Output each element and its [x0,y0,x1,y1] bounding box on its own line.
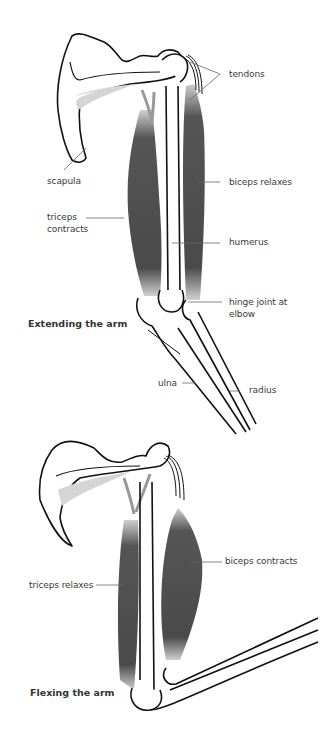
label-humerus: humerus [229,236,268,248]
humerus-bone-2 [140,482,154,690]
label-biceps-contracts: biceps contracts [225,555,297,567]
label-triceps-relaxes: triceps relaxes [29,579,93,591]
label-tendons: tendons [229,68,265,80]
triceps-muscle-2 [118,520,139,690]
arm-muscles-illustration [0,0,335,734]
caption-flexing: Flexing the arm [30,687,115,698]
ulna-bone [178,328,246,432]
triceps-muscle [128,110,162,296]
label-triceps-contracts-1: triceps [47,211,77,223]
scapula-bone [58,34,183,162]
label-hinge-joint-1: hinge joint at [229,296,287,308]
biceps-muscle-2 [161,508,202,660]
label-ulna: ulna [158,377,177,389]
caption-extending: Extending the arm [28,318,127,329]
label-radius: radius [249,384,276,396]
leader-lines-bottom [96,562,222,585]
humerus-bone [166,86,180,290]
label-triceps-contracts-2: contracts [47,223,88,235]
label-scapula: scapula [47,175,81,187]
label-hinge-joint-2: elbow [229,308,255,320]
label-biceps-relaxes: biceps relaxes [229,176,292,188]
flexing-arm-figure [40,442,319,711]
biceps-muscle [183,84,205,300]
